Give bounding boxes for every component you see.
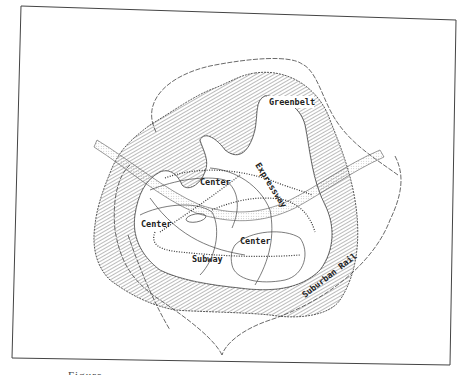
- label-center-east: Center: [240, 236, 271, 246]
- label-subway: Subway: [192, 254, 223, 264]
- figure-caption: Figure: [68, 369, 103, 375]
- label-greenbelt: Greenbelt: [269, 97, 315, 107]
- label-center-north: Center: [200, 177, 231, 187]
- label-center-west: Center: [141, 219, 172, 229]
- urban-plan-diagram: Greenbelt Center Expressway Center Cente…: [0, 0, 468, 375]
